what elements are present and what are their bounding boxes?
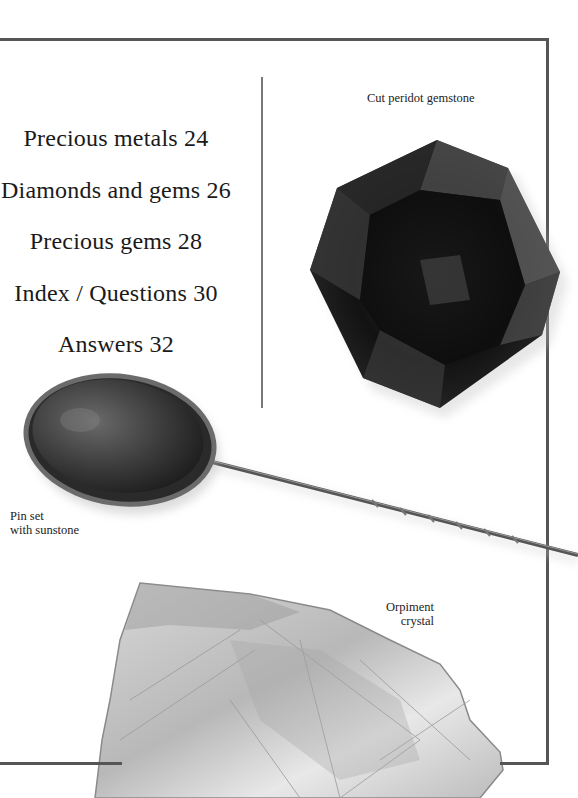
pin-caption-line1: Pin set	[10, 509, 79, 523]
orpiment-caption-line2: crystal	[350, 614, 434, 628]
orpiment-caption: Orpiment crystal	[350, 600, 434, 628]
illustrations	[0, 0, 578, 798]
frame-border-bottom-left	[0, 762, 122, 765]
orpiment-caption-line1: Orpiment	[350, 600, 434, 614]
oval-pin-icon	[15, 361, 229, 526]
pin-caption: Pin set with sunstone	[10, 509, 79, 537]
crystal-rock-icon	[95, 583, 503, 798]
peridot-caption: Cut peridot gemstone	[367, 91, 475, 105]
pin-stem-icon	[212, 461, 578, 560]
octagon-gem-icon	[310, 140, 568, 418]
pin-caption-line2: with sunstone	[10, 523, 79, 537]
frame-border-bottom-right	[500, 762, 549, 765]
